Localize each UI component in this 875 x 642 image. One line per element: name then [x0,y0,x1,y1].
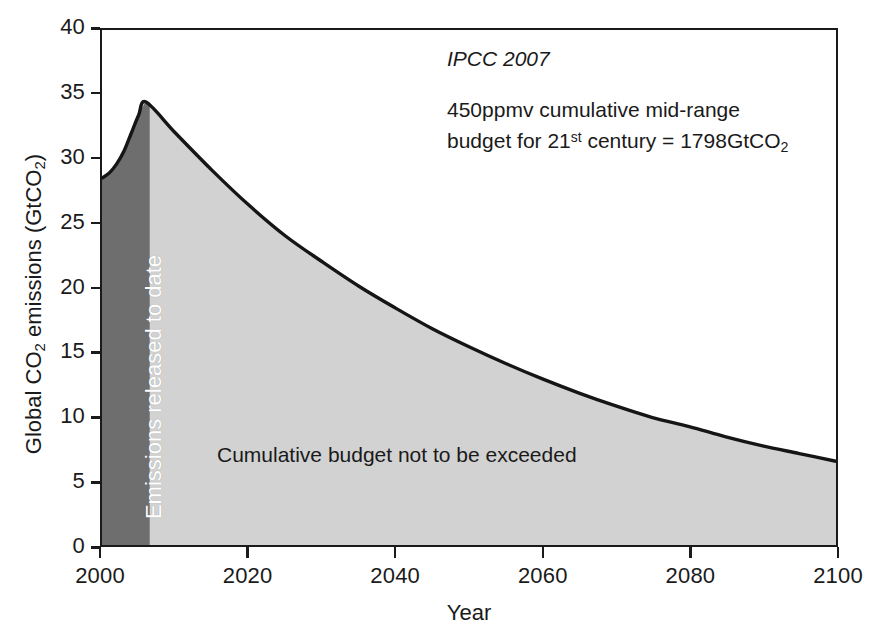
x-tick-mark [99,547,102,558]
y-axis-title-prefix: Global CO [21,351,46,454]
x-tick-mark [394,547,397,558]
plot-area: Emissions released to date Cumulative bu… [100,28,838,547]
annotation-budget-subscript: 2 [781,139,789,155]
y-tick-label: 10 [60,404,85,428]
annotation-budget-line2-post: century = 1798GtCO [582,129,781,152]
y-axis-title-sub1: 2 [31,343,48,351]
y-tick-mark [91,27,100,30]
annotation-budget-text: 450ppmv cumulative mid-range budget for … [447,94,837,159]
y-axis-title: Global CO2 emissions (GtCO2) [21,44,49,564]
y-axis-title-sub2: 2 [31,161,48,169]
annotation-budget-ordinal: st [571,129,582,145]
x-tick-label: 2080 [645,563,735,589]
x-tick-mark [837,547,840,558]
x-tick-label: 2040 [350,563,440,589]
y-tick-label: 0 [73,534,85,558]
co2-emissions-budget-chart: Emissions released to date Cumulative bu… [0,0,875,642]
y-tick-label: 15 [60,339,85,363]
annotation-budget-line2-pre: budget for 21 [447,129,571,152]
x-tick-label: 2020 [203,563,293,589]
x-axis-title: Year [100,600,838,626]
y-tick-mark [91,351,100,354]
y-tick-mark [91,92,100,95]
annotation-source: IPCC 2007 [447,44,837,74]
annotation-budget-line1: 450ppmv cumulative mid-range [447,98,740,121]
x-tick-mark [689,547,692,558]
annotation-block: IPCC 2007 450ppmv cumulative mid-range b… [447,44,837,159]
y-tick-mark [91,222,100,225]
emissions-released-to-date-label: Emissions released to date [142,187,166,587]
x-tick-mark [246,547,249,558]
y-tick-mark [91,287,100,290]
y-tick-label: 35 [60,80,85,104]
y-tick-label: 20 [60,275,85,299]
cumulative-budget-label: Cumulative budget not to be exceeded [217,442,577,468]
y-tick-label: 5 [73,469,85,493]
x-tick-label: 2060 [498,563,588,589]
y-tick-label: 40 [60,15,85,39]
y-tick-mark [91,416,100,419]
y-tick-mark [91,481,100,484]
y-tick-label: 30 [60,145,85,169]
y-axis-title-middle: emissions (GtCO [21,170,46,344]
x-tick-label: 2000 [55,563,145,589]
x-tick-mark [542,547,545,558]
x-tick-label: 2100 [793,563,875,589]
y-tick-label: 25 [60,210,85,234]
y-tick-mark [91,157,100,160]
